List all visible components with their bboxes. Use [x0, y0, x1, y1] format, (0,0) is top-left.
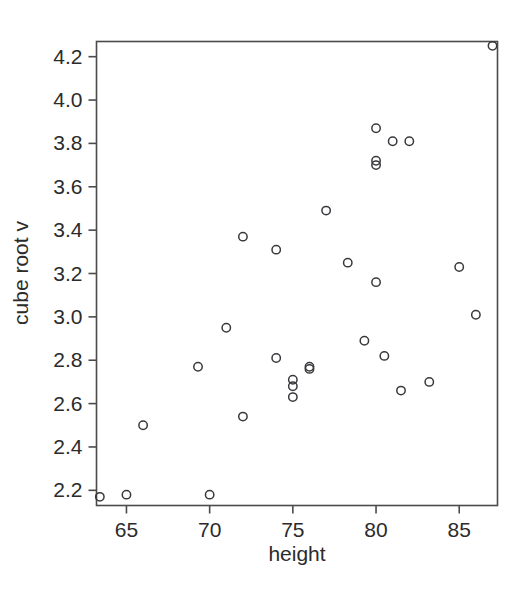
data-point: [397, 386, 405, 394]
data-point: [372, 278, 380, 286]
y-axis-tick-label: 3.2: [53, 262, 82, 285]
data-point: [455, 263, 463, 271]
y-axis-tick-label: 2.2: [53, 478, 82, 501]
y-axis-tick-label: 4.2: [53, 45, 82, 68]
x-axis-title: height: [268, 542, 325, 565]
y-axis-tick-label: 3.4: [53, 218, 83, 241]
y-axis-tick-label: 2.6: [53, 392, 82, 415]
y-axis-tick-label: 3.6: [53, 175, 82, 198]
data-point: [239, 232, 247, 240]
data-point: [239, 412, 247, 420]
y-axis-tick-label: 3.0: [53, 305, 82, 328]
data-point: [322, 206, 330, 214]
x-axis-tick-label-group: 6570758085: [115, 518, 471, 541]
data-point: [139, 421, 147, 429]
x-axis-tick-mark-group: [126, 506, 459, 514]
data-point: [122, 490, 130, 498]
y-axis-tick-label: 2.8: [53, 348, 82, 371]
plot-frame-rect: [97, 42, 498, 506]
x-axis-tick-label: 65: [115, 518, 138, 541]
plot-canvas: 2.22.42.62.83.03.23.43.63.84.04.2 657075…: [0, 0, 527, 590]
data-point: [289, 393, 297, 401]
y-axis-tick-label: 2.4: [53, 435, 83, 458]
data-point: [205, 490, 213, 498]
data-point: [472, 311, 480, 319]
y-axis-tick-label-group: 2.22.42.62.83.03.23.43.63.84.04.2: [53, 45, 83, 502]
data-point: [425, 378, 433, 386]
data-point: [360, 337, 368, 345]
data-point: [488, 42, 496, 50]
data-point: [372, 124, 380, 132]
data-point: [272, 245, 280, 253]
scatter-plot-figure: 2.22.42.62.83.03.23.43.63.84.04.2 657075…: [0, 0, 527, 590]
y-axis-title: cube root v: [9, 221, 32, 325]
data-point: [388, 137, 396, 145]
data-point: [222, 324, 230, 332]
y-axis-tick-mark-group: [89, 57, 97, 491]
data-point: [194, 363, 202, 371]
plot-frame: [97, 42, 498, 506]
x-axis-tick-label: 70: [198, 518, 221, 541]
data-point: [272, 354, 280, 362]
x-axis-tick-label: 85: [448, 518, 471, 541]
y-axis-tick-label: 3.8: [53, 131, 82, 154]
data-point: [380, 352, 388, 360]
x-axis-tick-label: 75: [281, 518, 304, 541]
x-axis-tick-label: 80: [364, 518, 387, 541]
data-point-group: [96, 42, 497, 501]
data-point: [344, 258, 352, 266]
y-axis-tick-label: 4.0: [53, 88, 82, 111]
data-point: [405, 137, 413, 145]
